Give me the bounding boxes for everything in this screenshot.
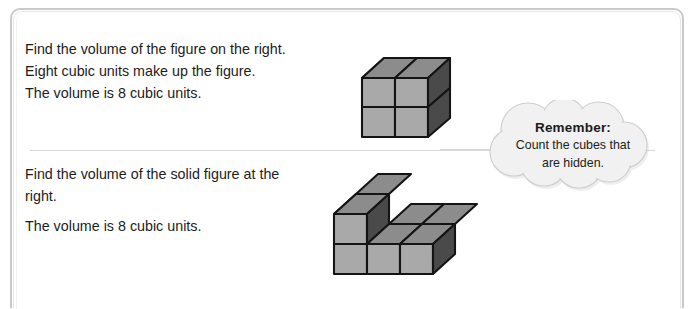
cube-2x2x2-svg	[352, 30, 467, 145]
exercise-top-text: Find the volume of the figure on the rig…	[25, 38, 355, 104]
exercise-top-line-1: Find the volume of the figure on the rig…	[25, 38, 355, 60]
callout-leader-line	[440, 149, 490, 150]
exercise-bottom-text: Find the volume of the solid figure at t…	[25, 163, 310, 237]
callout-remember: Remember: Count the cubes that are hidde…	[484, 100, 662, 192]
figure-solid-l	[322, 172, 482, 284]
figure-cube-2x2x2	[352, 30, 467, 145]
exercise-bottom-line-1: Find the volume of the solid figure at t…	[25, 163, 310, 207]
callout-body-line-2: are hidden.	[484, 156, 662, 172]
text-gap	[25, 207, 310, 215]
callout-body-line-1: Count the cubes that	[484, 138, 662, 154]
callout-title: Remember:	[484, 119, 662, 136]
exercise-top-line-2: Eight cubic units make up the figure.	[25, 60, 355, 82]
exercise-bottom-line-2: The volume is 8 cubic units.	[25, 215, 310, 237]
solid-l-svg	[322, 172, 482, 284]
exercise-top-line-3: The volume is 8 cubic units.	[25, 82, 355, 104]
callout-text: Remember: Count the cubes that are hidde…	[484, 119, 662, 171]
